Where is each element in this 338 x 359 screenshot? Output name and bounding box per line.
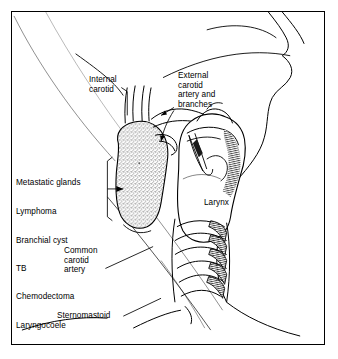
figure-frame: Internal carotid External carotid artery… — [11, 11, 325, 345]
label-external-carotid: External carotid artery and branches — [178, 71, 215, 109]
list-item: Chemodectoma — [16, 292, 81, 302]
label-internal-carotid: Internal carotid — [89, 75, 117, 94]
differential-diagnosis-list: Metastatic glands Lymphoma Branchial cys… — [16, 159, 81, 345]
list-item: Lymphoma — [16, 207, 81, 217]
figure-root: Internal carotid External carotid artery… — [0, 0, 338, 359]
list-item: Metastatic glands — [16, 178, 81, 188]
label-larynx: Larynx — [204, 198, 229, 208]
list-item: TB — [16, 264, 81, 273]
jaw-line — [207, 26, 277, 38]
list-item: Laryngocoele — [16, 321, 81, 331]
list-item: Branchial cyst — [16, 236, 81, 245]
